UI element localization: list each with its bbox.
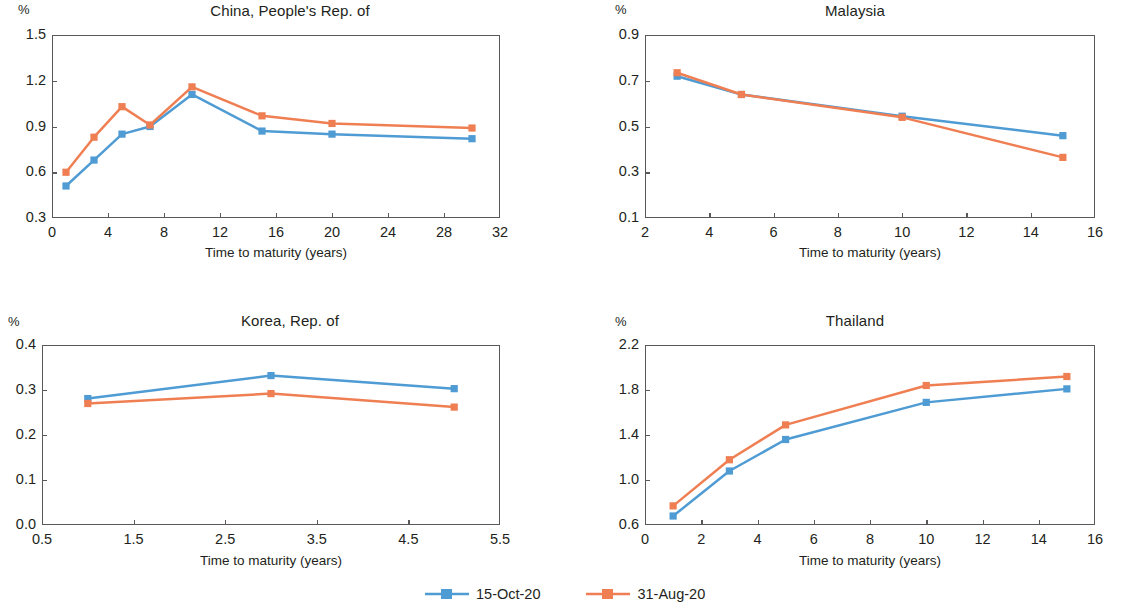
data-point-marker xyxy=(1059,154,1066,161)
panel-korea: % Korea, Rep. of 0.00.10.20.30.40.51.52.… xyxy=(0,300,565,590)
data-point-marker xyxy=(328,131,335,138)
data-point-marker xyxy=(726,467,733,474)
x-axis-title: Time to maturity (years) xyxy=(71,553,471,568)
data-point-marker xyxy=(738,91,745,98)
x-axis-title: Time to maturity (years) xyxy=(76,245,476,260)
legend-label: 15-Oct-20 xyxy=(476,586,540,602)
series-layer xyxy=(565,300,1129,590)
series-line xyxy=(66,87,472,172)
legend-label: 31-Aug-20 xyxy=(637,586,705,602)
data-point-marker xyxy=(258,127,265,134)
legend: 15-Oct-20 31-Aug-20 xyxy=(425,586,705,602)
data-point-marker xyxy=(84,400,91,407)
data-point-marker xyxy=(782,436,789,443)
data-point-marker xyxy=(899,114,906,121)
data-point-marker xyxy=(90,134,97,141)
data-point-marker xyxy=(670,512,677,519)
data-point-marker xyxy=(674,69,681,76)
data-point-marker xyxy=(90,156,97,163)
data-point-marker xyxy=(267,372,274,379)
data-point-marker xyxy=(62,182,69,189)
panel-china: % China, People's Rep. of 0.30.60.91.21.… xyxy=(0,0,565,290)
data-point-marker xyxy=(782,421,789,428)
data-point-marker xyxy=(451,404,458,411)
series-layer xyxy=(0,300,565,590)
data-point-marker xyxy=(1063,385,1070,392)
data-point-marker xyxy=(146,121,153,128)
panel-malaysia: % Malaysia 0.10.30.50.70.9246810121416 T… xyxy=(565,0,1129,290)
data-point-marker xyxy=(451,385,458,392)
series-line xyxy=(677,73,1063,158)
data-point-marker xyxy=(118,131,125,138)
x-axis-title: Time to maturity (years) xyxy=(670,245,1070,260)
data-point-marker xyxy=(188,91,195,98)
data-point-marker xyxy=(468,135,475,142)
series-line xyxy=(677,76,1063,135)
data-point-marker xyxy=(118,103,125,110)
data-point-marker xyxy=(923,382,930,389)
data-point-marker xyxy=(726,456,733,463)
legend-item-0[interactable]: 15-Oct-20 xyxy=(425,586,540,602)
panel-thailand: % Thailand 0.61.01.41.82.20246810121416 … xyxy=(565,300,1129,590)
data-point-marker xyxy=(923,399,930,406)
data-point-marker xyxy=(468,124,475,131)
data-point-marker xyxy=(670,502,677,509)
legend-line-marker-icon xyxy=(425,588,469,600)
series-line xyxy=(66,94,472,186)
legend-item-1[interactable]: 31-Aug-20 xyxy=(586,586,705,602)
data-point-marker xyxy=(188,83,195,90)
data-point-marker xyxy=(328,120,335,127)
series-line xyxy=(673,389,1067,516)
series-line xyxy=(673,377,1067,506)
data-point-marker xyxy=(1063,373,1070,380)
data-point-marker xyxy=(267,390,274,397)
data-point-marker xyxy=(258,112,265,119)
yield-curve-figure: % China, People's Rep. of 0.30.60.91.21.… xyxy=(0,0,1129,611)
data-point-marker xyxy=(1059,132,1066,139)
legend-line-marker-icon xyxy=(586,588,630,600)
x-axis-title: Time to maturity (years) xyxy=(670,553,1070,568)
data-point-marker xyxy=(62,169,69,176)
